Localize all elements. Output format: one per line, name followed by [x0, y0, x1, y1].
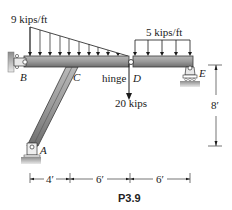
- hinge-label: hinge: [102, 73, 126, 84]
- uniform-load: [135, 40, 190, 53]
- triangular-load: [28, 27, 128, 56]
- dim-6ft-label-2: 6′: [156, 174, 164, 185]
- point-D-label: D: [133, 73, 141, 84]
- uniform-load-label: 5 kips/ft: [146, 27, 182, 38]
- point-A-label: A: [40, 145, 47, 156]
- figure-caption: P3.9: [118, 193, 141, 204]
- dim-8ft-label: 8′: [211, 100, 219, 111]
- support-E: [180, 66, 200, 87]
- hinge-D: [129, 60, 134, 65]
- dim-6ft-label-1: 6′: [96, 174, 104, 185]
- beam-BD: [24, 56, 129, 67]
- point-load-label: 20 kips: [115, 98, 147, 109]
- beam-DE: [133, 56, 193, 67]
- horizontal-dimension: [30, 173, 190, 183]
- point-load-arrow: [126, 64, 132, 100]
- triangular-load-label: 9 kips/ft: [11, 14, 47, 25]
- member-AC: [27, 67, 78, 146]
- point-E-label: E: [199, 68, 206, 79]
- point-C-label: C: [73, 72, 80, 83]
- support-B: [8, 52, 27, 72]
- dim-4ft-label: 4′: [46, 174, 54, 185]
- point-B-label: B: [20, 72, 27, 83]
